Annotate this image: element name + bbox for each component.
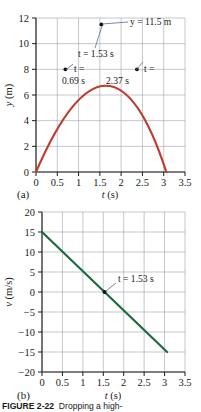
panel-b-y-axis-unit: (m/s): [3, 277, 15, 302]
panel-b-velocity-graph: 20 15 10 5 0 −5 −10 −15 −20 0 0.5 1 1.5 …: [0, 200, 201, 412]
panel-a-x-tick-labels: 0 0.5 1 1.5 2 2.5 3 3.5: [33, 177, 191, 188]
panel-a-xtick-4: 2: [119, 177, 124, 188]
panel-a-left-time-label-line1: t =: [74, 63, 84, 74]
panel-b-y-axis-title: v (m/s): [3, 277, 15, 307]
panel-b-ytick-neg20: −20: [19, 367, 35, 378]
panel-a-y-tick-marks: [32, 18, 36, 172]
panel-a-peak-point: [100, 23, 104, 27]
projectile-motion-figure: 0 2 4 6 8 10 12 0 0.5 1 1.5 2 2.5 3 3.5 …: [0, 0, 201, 412]
panel-a-xtick-0: 0: [33, 177, 38, 188]
panel-b-xtick-1: 0.5: [56, 377, 69, 388]
panel-b-ytick-neg15: −15: [19, 347, 35, 358]
panel-b-x-tick-marks: [42, 372, 185, 376]
panel-b-zero-crossing-label: t = 1.53 s: [118, 273, 154, 284]
panel-b-y-tick-labels: 20 15 10 5 0 −5 −10 −15 −20: [19, 207, 35, 378]
panel-a-ytick-5: 10: [19, 38, 30, 49]
panel-a-y-axis-title: y (m): [3, 83, 15, 107]
panel-b-ytick-15: 15: [25, 227, 36, 238]
panel-a-y-axis-unit: (m): [3, 83, 15, 101]
panel-a-right-time-label-line2: 2.37 s: [106, 75, 129, 86]
panel-a-letter: (a): [17, 188, 30, 200]
panel-a-x-axis-title: t (s): [102, 189, 119, 200]
panel-b-xtick-7: 3.5: [178, 377, 191, 388]
panel-a-ytick-6: 12: [19, 13, 30, 24]
panel-a-position-graph: 0 2 4 6 8 10 12 0 0.5 1 1.5 2 2.5 3 3.5 …: [0, 0, 201, 200]
panel-a-ytick-4: 8: [24, 64, 29, 75]
panel-a-y-tick-labels: 0 2 4 6 8 10 12: [19, 13, 30, 178]
panel-a-xtick-6: 3: [161, 177, 166, 188]
panel-a-ytick-3: 6: [24, 90, 29, 101]
panel-b-ytick-5: 5: [30, 267, 35, 278]
panel-a-xtick-5: 2.5: [136, 177, 149, 188]
panel-a-ytick-1: 2: [24, 141, 29, 152]
panel-a-right-time-label-line1: t =: [144, 63, 154, 74]
panel-a-peak-value-label: y = 11.5 m: [130, 16, 172, 27]
panel-a-horizontal-gridlines: [36, 18, 185, 172]
panel-a-xtick-3: 1.5: [93, 177, 106, 188]
panel-a-x-tick-marks: [36, 172, 185, 176]
panel-b-plot: 20 15 10 5 0 −5 −10 −15 −20 0 0.5 1 1.5 …: [0, 200, 201, 412]
figure-caption-text: Dropping a high-: [59, 401, 123, 411]
panel-b-ytick-neg10: −10: [19, 327, 35, 338]
figure-caption: FIGURE 2-22 Dropping a high-: [2, 401, 201, 412]
panel-b-ytick-neg5: −5: [24, 307, 35, 318]
panel-b-xtick-3: 1.5: [97, 377, 110, 388]
panel-a-ytick-0: 0: [24, 167, 29, 178]
panel-a-xtick-2: 1: [76, 177, 81, 188]
panel-a-xtick-1: 0.5: [51, 177, 64, 188]
panel-b-xtick-5: 2.5: [138, 377, 151, 388]
panel-a-xtick-7: 3.5: [178, 177, 191, 188]
panel-b-ytick-0: 0: [30, 287, 35, 298]
panel-b-xtick-6: 3: [162, 377, 167, 388]
panel-b-leader-lines: [106, 283, 116, 291]
panel-a-x-axis-unit: (s): [105, 189, 119, 200]
panel-b-ytick-10: 10: [25, 247, 36, 258]
panel-b-xtick-0: 0: [39, 377, 44, 388]
panel-b-x-tick-labels: 0 0.5 1 1.5 2 2.5 3 3.5: [39, 377, 191, 388]
panel-a-ytick-2: 4: [24, 115, 30, 126]
panel-a-position-curve: [36, 86, 166, 172]
panel-b-xtick-4: 2: [121, 377, 126, 388]
panel-a-plot: 0 2 4 6 8 10 12 0 0.5 1 1.5 2 2.5 3 3.5 …: [0, 0, 201, 200]
panel-b-ytick-20: 20: [25, 207, 36, 218]
panel-a-left-time-label-line2: 0.69 s: [62, 75, 85, 86]
panel-a-peak-time-label: t = 1.53 s: [78, 48, 114, 59]
figure-caption-label: FIGURE 2-22: [2, 401, 54, 411]
panel-b-xtick-2: 1: [80, 377, 85, 388]
panel-b-y-tick-marks: [38, 212, 42, 372]
